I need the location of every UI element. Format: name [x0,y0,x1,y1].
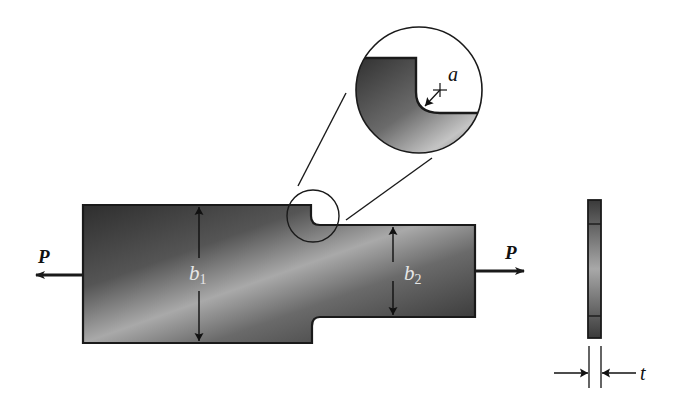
fillet-detail-view: a [340,27,500,170]
side-view [588,200,601,338]
left-load-label: P [37,246,50,267]
stepped-bar-diagram: P P b1 b2 [0,0,683,418]
left-load: P [36,246,83,275]
thickness-dimension: t [554,346,646,388]
right-load-label: P [504,242,517,263]
leader-line-left [298,93,346,186]
right-load: P [475,242,524,271]
thickness-label: t [640,362,646,384]
side-view-body [588,200,601,338]
leader-line-right [346,158,432,220]
fillet-radius-label: a [448,63,458,85]
